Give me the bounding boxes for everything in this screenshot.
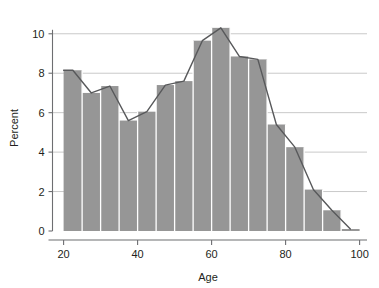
x-tick-label: 80 [279, 248, 291, 260]
y-tick-label: 10 [32, 28, 44, 40]
chart-canvas: 0246810 20406080100 Percent Age [0, 0, 379, 288]
x-tick-label: 100 [350, 248, 368, 260]
y-tick-label: 8 [38, 67, 44, 79]
histogram-bar [156, 85, 175, 231]
histogram-bar [286, 147, 305, 231]
y-axis-title: Percent [8, 109, 20, 147]
histogram-bar [230, 56, 249, 231]
histogram-bar [323, 210, 342, 231]
histogram-bar [267, 125, 286, 232]
y-tick-label: 4 [38, 146, 44, 158]
histogram-bar [193, 41, 212, 231]
histogram-bar [212, 28, 231, 231]
histogram-bar [82, 93, 101, 231]
x-tick-label: 60 [205, 248, 217, 260]
y-tick-label: 6 [38, 107, 44, 119]
x-tick-label: 20 [57, 248, 69, 260]
histogram-bar [119, 121, 138, 231]
histogram-bar [249, 59, 268, 231]
y-tick-label: 0 [38, 225, 44, 237]
histogram-bar [101, 86, 120, 231]
histogram-bar [138, 112, 157, 231]
y-tick-label: 2 [38, 186, 44, 198]
histogram-bar [64, 70, 83, 231]
histogram-bar [175, 81, 194, 231]
x-tick-label: 40 [131, 248, 143, 260]
x-axis-title: Age [198, 271, 218, 283]
histogram-chart: 0246810 20406080100 Percent Age [0, 0, 379, 288]
